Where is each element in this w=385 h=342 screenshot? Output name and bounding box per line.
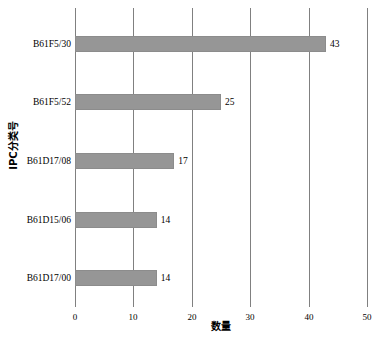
bar-series-item[interactable] <box>75 212 157 228</box>
gridline-30 <box>250 8 251 302</box>
gridline-50 <box>367 8 368 302</box>
bar-value-label: 17 <box>178 153 188 169</box>
bar-value-label: 25 <box>225 94 235 110</box>
y-tick-label: B61D17/08 <box>0 153 71 169</box>
y-axis-title: IPC分类号 <box>5 101 20 191</box>
x-tickmark <box>192 302 193 307</box>
y-tick-label: B61D17/00 <box>0 270 71 286</box>
y-tick-label: B61F5/52 <box>0 94 71 110</box>
x-tickmark <box>133 302 134 307</box>
bar-value-label: 14 <box>161 212 171 228</box>
x-tickmark <box>367 302 368 307</box>
bar-value-label: 43 <box>330 36 340 52</box>
bar-chart: IPC分类号 B61F5/30 B61F5/52 B61D17/08 B61D1… <box>0 0 385 342</box>
bar-series-item[interactable] <box>75 36 326 52</box>
bar-series-item[interactable] <box>75 94 221 110</box>
x-axis-title: 数量 <box>75 318 367 333</box>
bar-value-label: 14 <box>161 270 171 286</box>
gridline-40 <box>309 8 310 302</box>
bar-series-item[interactable] <box>75 153 174 169</box>
gridline-20 <box>192 8 193 302</box>
x-tickmark <box>309 302 310 307</box>
bar-series-item[interactable] <box>75 270 157 286</box>
plot-area: 43 25 17 14 14 0 10 20 30 40 50 <box>75 8 367 302</box>
x-tickmark <box>75 302 76 307</box>
y-tick-label: B61D15/06 <box>0 212 71 228</box>
y-tick-label: B61F5/30 <box>0 36 71 52</box>
x-tickmark <box>250 302 251 307</box>
